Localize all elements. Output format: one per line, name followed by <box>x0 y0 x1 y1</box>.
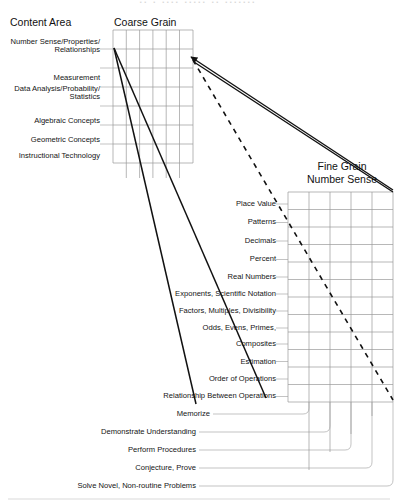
cognitive-demand-label-memorize: Memorize <box>60 410 210 419</box>
tie-line-arrow <box>191 57 393 190</box>
cognitive-demand-connectors <box>199 402 393 486</box>
content-area-label-geometric-concepts: Geometric Concepts <box>0 136 100 145</box>
tie-line-lower <box>194 62 393 192</box>
content-area-label-data-analysis: Data Analysis/Probability/ Statistics <box>0 85 100 102</box>
fine-grain-label-exponents: Exponents, Scientific Notation <box>100 290 276 299</box>
fine-grain-label-order-of-operations: Order of Operations <box>110 375 276 384</box>
cognitive-demand-label-demonstrate-understanding: Demonstrate Understanding <box>40 428 196 437</box>
content-area-label-number-sense: Number Sense/Properties/ Relationships <box>0 38 100 55</box>
fine-grain-label-percent: Percent <box>120 255 276 264</box>
fine-grain-label-patterns: Patterns <box>120 218 276 227</box>
dashed-diagonal <box>193 60 393 400</box>
fine-grain-leader-lines <box>276 204 288 397</box>
tie-lines <box>191 57 393 192</box>
content-area-label-algebraic-concepts: Algebraic Concepts <box>0 117 100 126</box>
coarse-grain-grid <box>113 30 193 178</box>
fine-grain-label-estimation: Estimation <box>120 358 276 367</box>
fine-grain-label-composites: Composites <box>120 340 276 349</box>
cognitive-demand-label-solve-novel-problems: Solve Novel, Non-routine Problems <box>20 482 196 491</box>
cognitive-demand-label-perform-procedures: Perform Procedures <box>40 446 196 455</box>
fine-grain-grid <box>288 192 393 470</box>
fine-grain-label-odds-evens-primes: Odds, Evens, Primes, <box>100 324 276 333</box>
fine-grain-label-real-numbers: Real Numbers <box>120 273 276 282</box>
content-area-leader-lines <box>100 49 113 144</box>
cognitive-demand-label-conjecture-prove: Conjecture, Prove <box>40 464 196 473</box>
fine-grain-label-place-value: Place Value <box>120 200 276 209</box>
fine-grain-label-factors: Factors, Multiples, Divisibility <box>100 307 276 316</box>
figure-page: .. . .... ..... .. ....... Content Area … <box>0 0 396 504</box>
content-area-label-measurement: Measurement <box>0 74 100 83</box>
fine-grain-label-decimals: Decimals <box>120 237 276 246</box>
content-area-label-instructional-technology: Instructional Technology <box>0 152 100 161</box>
fine-grain-label-relationship-between-operations: Relationship Between Operations <box>90 392 276 401</box>
